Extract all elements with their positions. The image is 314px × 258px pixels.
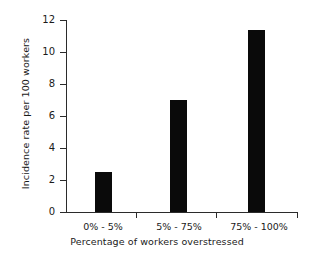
y-tick-8 xyxy=(60,84,66,85)
y-tick-label-6: 6 xyxy=(49,109,55,122)
y-tick-12 xyxy=(60,20,66,21)
y-axis-title: Incidence rate per 100 workers xyxy=(20,9,31,219)
x-category-label-2: 75% - 100% xyxy=(216,221,302,232)
y-tick-label-2: 2 xyxy=(49,173,55,186)
y-axis-line xyxy=(66,20,67,213)
y-tick-4 xyxy=(60,148,66,149)
x-axis-title: Percentage of workers overstressed xyxy=(0,236,314,247)
y-tick-label-8: 8 xyxy=(49,77,55,90)
y-tick-label-12: 12 xyxy=(42,13,55,26)
y-tick-10 xyxy=(60,52,66,53)
y-tick-label-4: 4 xyxy=(49,141,55,154)
y-tick-6 xyxy=(60,116,66,117)
y-tick-0 xyxy=(60,212,66,213)
x-tick-3 xyxy=(297,212,298,218)
x-category-label-0: 0% - 5% xyxy=(63,221,143,232)
bar-1 xyxy=(170,100,187,212)
bar-2 xyxy=(248,30,265,212)
y-tick-2 xyxy=(60,180,66,181)
x-tick-2 xyxy=(216,212,217,218)
x-category-label-1: 5% - 75% xyxy=(139,221,219,232)
y-tick-label-0: 0 xyxy=(49,205,55,218)
x-tick-1 xyxy=(136,212,137,218)
bar-0 xyxy=(95,172,112,212)
y-tick-label-10: 10 xyxy=(42,45,55,58)
x-axis-line xyxy=(66,212,298,213)
bar-chart: Incidence rate per 100 workers 12 10 8 6… xyxy=(0,0,314,258)
